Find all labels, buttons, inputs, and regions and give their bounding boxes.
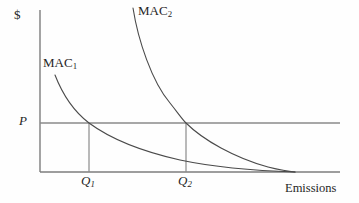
q2-label: Q2 bbox=[178, 174, 192, 187]
q1-label-subscript: 1 bbox=[90, 179, 94, 189]
mac2-label-subscript: 2 bbox=[168, 9, 172, 19]
mac2-curve bbox=[133, 8, 295, 172]
mac2-label-text: MAC bbox=[138, 3, 168, 18]
y-axis-label: $ bbox=[14, 8, 21, 21]
mac-curves-figure: $ P MAC1 MAC2 Q1 Q2 Emissions bbox=[0, 0, 359, 203]
price-label: P bbox=[19, 114, 27, 127]
mac1-label-text: MAC bbox=[43, 55, 73, 70]
mac2-label: MAC2 bbox=[138, 4, 172, 17]
q2-label-subscript: 2 bbox=[187, 179, 191, 189]
q1-label-text: Q bbox=[81, 173, 90, 188]
mac1-label: MAC1 bbox=[43, 56, 77, 69]
mac1-label-subscript: 1 bbox=[73, 61, 77, 71]
x-axis-label: Emissions bbox=[285, 182, 336, 195]
q1-label: Q1 bbox=[81, 174, 95, 187]
q2-label-text: Q bbox=[178, 173, 187, 188]
